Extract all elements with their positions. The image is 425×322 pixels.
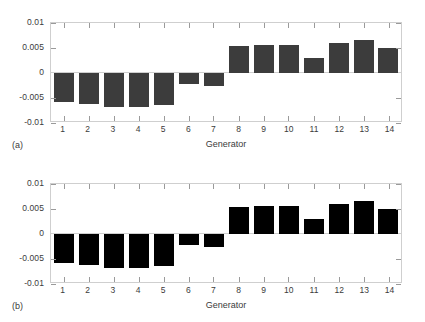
x-tick-mark bbox=[314, 184, 315, 189]
x-tick-mark bbox=[364, 277, 365, 282]
x-tick-mark bbox=[288, 184, 289, 189]
x-tick-mark bbox=[389, 116, 390, 121]
x-tick-mark bbox=[264, 116, 265, 121]
x-tick-mark bbox=[389, 184, 390, 189]
plot-area-b bbox=[50, 183, 402, 283]
bar-cell bbox=[376, 184, 401, 282]
chart-panel-a: 0.010.0050-0.005-0.01 123456789101112131… bbox=[0, 0, 425, 161]
y-tick-mark bbox=[396, 184, 401, 185]
x-axis-title-b: Generator bbox=[50, 300, 402, 310]
bar-cell bbox=[201, 184, 226, 282]
x-tick-mark bbox=[288, 116, 289, 121]
x-tick-mark bbox=[314, 277, 315, 282]
bar-cell bbox=[351, 184, 376, 282]
bar bbox=[204, 234, 224, 247]
x-tick-label: 3 bbox=[110, 285, 115, 295]
bar-cell bbox=[301, 184, 326, 282]
y-tick-label: 0.005 bbox=[22, 42, 44, 52]
x-tick-mark bbox=[114, 277, 115, 282]
x-tick-mark bbox=[288, 277, 289, 282]
bar-cell bbox=[101, 184, 126, 282]
bar bbox=[229, 207, 249, 234]
x-tick-mark bbox=[189, 116, 190, 121]
bar bbox=[304, 219, 324, 234]
bar bbox=[279, 206, 299, 235]
bar-cell bbox=[276, 23, 301, 121]
x-tick-label: 13 bbox=[360, 285, 369, 295]
bar-cell bbox=[226, 184, 251, 282]
x-tick-mark bbox=[239, 23, 240, 28]
bar bbox=[254, 206, 274, 235]
y-tick-mark bbox=[51, 209, 56, 210]
x-tick-mark bbox=[89, 23, 90, 28]
x-tick-mark bbox=[89, 277, 90, 282]
x-tick-mark bbox=[189, 23, 190, 28]
y-tick-mark bbox=[396, 23, 401, 24]
y-tick-label: 0.01 bbox=[27, 17, 44, 27]
x-tick-mark bbox=[389, 277, 390, 282]
x-tick-mark bbox=[139, 184, 140, 189]
x-tick-mark bbox=[164, 184, 165, 189]
y-axis-labels-a: 0.010.0050-0.005-0.01 bbox=[0, 0, 48, 144]
bar bbox=[104, 234, 124, 268]
x-tick-label: 12 bbox=[334, 285, 343, 295]
x-tick-mark bbox=[139, 23, 140, 28]
bar-series-b bbox=[51, 184, 401, 282]
x-tick-mark bbox=[89, 116, 90, 121]
bar bbox=[354, 40, 374, 74]
x-tick-mark bbox=[389, 23, 390, 28]
y-tick-label: 0 bbox=[39, 228, 44, 238]
figure-container: 0.010.0050-0.005-0.01 123456789101112131… bbox=[0, 0, 425, 322]
bar bbox=[229, 46, 249, 73]
x-tick-mark bbox=[364, 23, 365, 28]
x-tick-label: 10 bbox=[284, 124, 293, 134]
y-tick-label: -0.005 bbox=[19, 92, 44, 102]
x-tick-mark bbox=[64, 184, 65, 189]
bar bbox=[79, 73, 99, 104]
x-tick-mark bbox=[189, 184, 190, 189]
bar-cell bbox=[126, 184, 151, 282]
bar bbox=[179, 73, 199, 84]
bar bbox=[54, 73, 74, 102]
x-tick-mark bbox=[213, 116, 214, 121]
x-tick-mark bbox=[339, 184, 340, 189]
y-tick-mark bbox=[396, 259, 401, 260]
x-tick-label: 7 bbox=[211, 285, 216, 295]
x-tick-label: 4 bbox=[136, 124, 141, 134]
x-tick-mark bbox=[264, 277, 265, 282]
x-tick-label: 14 bbox=[385, 124, 394, 134]
bar-cell bbox=[101, 23, 126, 121]
bar-cell bbox=[326, 184, 351, 282]
x-tick-mark bbox=[264, 184, 265, 189]
x-tick-label: 13 bbox=[360, 124, 369, 134]
y-tick-mark bbox=[396, 98, 401, 99]
x-tick-label: 11 bbox=[310, 124, 319, 134]
x-tick-label: 1 bbox=[60, 124, 65, 134]
panel-tag-b: (b) bbox=[12, 301, 23, 311]
x-tick-mark bbox=[64, 116, 65, 121]
x-tick-label: 1 bbox=[60, 285, 65, 295]
bar-cell bbox=[151, 184, 176, 282]
x-tick-mark bbox=[239, 277, 240, 282]
bar bbox=[154, 234, 174, 266]
x-tick-mark bbox=[114, 116, 115, 121]
x-tick-label: 9 bbox=[261, 285, 266, 295]
x-tick-mark bbox=[64, 277, 65, 282]
bar-cell bbox=[176, 184, 201, 282]
x-tick-label: 9 bbox=[261, 124, 266, 134]
bar bbox=[129, 234, 149, 268]
bar bbox=[129, 73, 149, 107]
x-tick-mark bbox=[114, 184, 115, 189]
y-tick-label: -0.01 bbox=[24, 117, 44, 127]
x-tick-mark bbox=[239, 184, 240, 189]
x-tick-label: 2 bbox=[85, 124, 90, 134]
x-tick-mark bbox=[339, 116, 340, 121]
y-tick-mark bbox=[396, 48, 401, 49]
bar-cell bbox=[126, 23, 151, 121]
x-tick-mark bbox=[164, 23, 165, 28]
x-tick-mark bbox=[114, 23, 115, 28]
bar-cell bbox=[151, 23, 176, 121]
x-tick-label: 7 bbox=[211, 124, 216, 134]
y-tick-mark bbox=[396, 209, 401, 210]
bar-cell bbox=[226, 23, 251, 121]
